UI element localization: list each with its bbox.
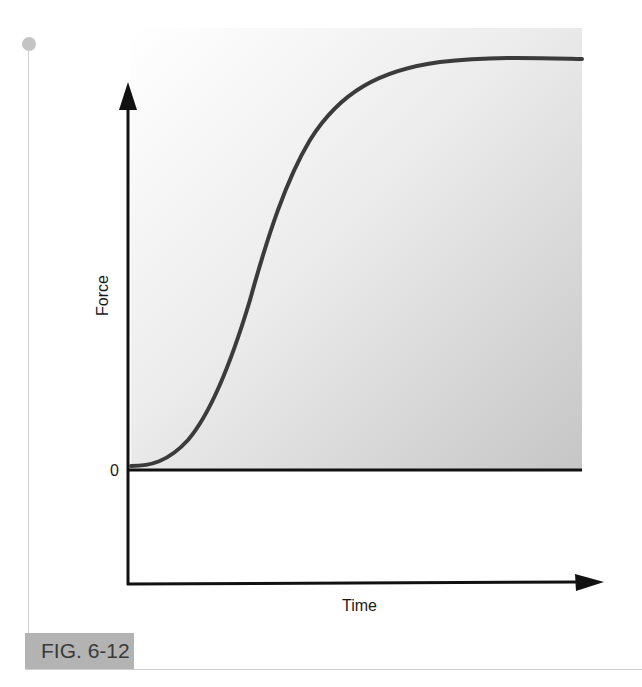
- y-axis-label: Force: [94, 275, 112, 316]
- x-axis: [127, 582, 578, 584]
- x-axis-arrow-icon: [575, 574, 604, 591]
- shaded-region: [131, 28, 582, 470]
- force-time-chart: [0, 0, 642, 687]
- figure-label: FIG. 6-12: [25, 633, 134, 669]
- y-tick-zero: 0: [110, 462, 119, 480]
- x-axis-label: Time: [342, 597, 377, 615]
